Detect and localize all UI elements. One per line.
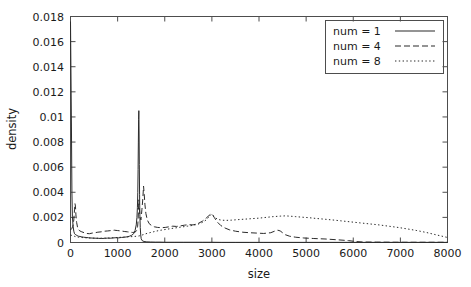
y-axis-title: density <box>5 108 19 150</box>
x-tick-label: 3000 <box>198 247 226 260</box>
y-tick-label: 0.01 <box>40 111 65 124</box>
y-tick-label: 0.008 <box>33 136 65 149</box>
data-series-group <box>71 22 448 243</box>
y-tick-label: 0.002 <box>33 211 65 224</box>
y-tick-label: 0.014 <box>33 61 65 74</box>
legend-label-3: num = 8 <box>333 55 381 68</box>
x-tick-label: 1000 <box>104 247 132 260</box>
series-line-1 <box>71 22 448 243</box>
x-tick-label: 8000 <box>434 247 462 260</box>
plot-frame <box>71 17 448 243</box>
y-tick-label: 0 <box>57 237 64 250</box>
x-tick-label: 5000 <box>292 247 320 260</box>
chart-legend: num = 1num = 4num = 8 <box>326 21 444 74</box>
x-tick-label: 7000 <box>386 247 414 260</box>
x-axis-tick-labels: 010002000300040005000600070008000 <box>67 247 462 260</box>
x-tick-label: 0 <box>67 247 74 260</box>
y-tick-label: 0.018 <box>33 11 65 24</box>
x-tick-label: 2000 <box>151 247 179 260</box>
axis-tickmarks <box>71 17 448 243</box>
series-line-2 <box>71 186 448 242</box>
legend-label-2: num = 4 <box>333 40 381 53</box>
x-tick-label: 4000 <box>245 247 273 260</box>
density-chart-figure: 00.0020.0040.0060.0080.010.0120.0140.016… <box>0 0 471 287</box>
legend-label-1: num = 1 <box>333 25 381 38</box>
y-tick-label: 0.006 <box>33 161 65 174</box>
series-line-3 <box>71 214 448 238</box>
x-axis-title: size <box>248 267 270 281</box>
y-tick-label: 0.016 <box>33 36 65 49</box>
y-tick-label: 0.004 <box>33 186 65 199</box>
y-axis-tick-labels: 00.0020.0040.0060.0080.010.0120.0140.016… <box>33 11 65 250</box>
x-tick-label: 6000 <box>339 247 367 260</box>
y-tick-label: 0.012 <box>33 86 65 99</box>
plot-canvas: 00.0020.0040.0060.0080.010.0120.0140.016… <box>0 0 471 287</box>
